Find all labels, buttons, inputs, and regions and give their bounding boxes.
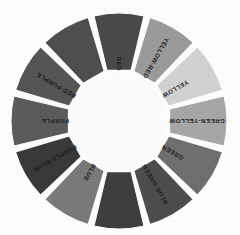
- color-wheel-figure: REDYELLOW-REDYELLOWGREEN-YELLOWGREENBLUE…: [0, 0, 240, 235]
- segment-label: GREEN-YELLOW: [169, 118, 225, 125]
- segment-label: RED: [116, 57, 123, 71]
- wheel-center-hub: [71, 73, 167, 169]
- color-wheel-svg: REDYELLOW-REDYELLOWGREEN-YELLOWGREENBLUE…: [0, 0, 240, 235]
- segment-label: PURPLE: [41, 118, 69, 125]
